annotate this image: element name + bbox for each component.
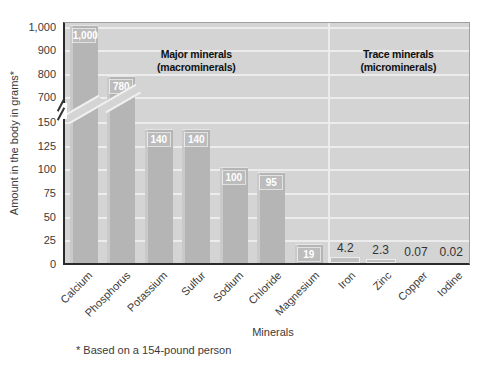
y-tick-label-125: 125: [16, 140, 56, 153]
x-tick-label-copper: Copper: [336, 269, 429, 362]
bar-magnesium: 19: [295, 244, 323, 263]
bar-potassium: 140: [145, 129, 173, 263]
bar-slot-iron: 4.2: [328, 23, 363, 263]
bar-break-mark: [64, 95, 104, 125]
plot-area: 1,0007801401401009519Major minerals(macr…: [63, 22, 470, 265]
y-tick-label-800: 800: [16, 68, 56, 81]
bar-chloride: 95: [257, 172, 285, 263]
y-tick-label-75: 75: [16, 187, 56, 200]
y-axis-ticks: 1,0009008007001501251007550250: [16, 22, 56, 265]
y-tick-label-900: 900: [16, 44, 56, 57]
bar-sulfur: 140: [182, 129, 210, 263]
bar-value-label: 19: [297, 247, 321, 262]
trace-title-line2: (microminerals): [360, 61, 436, 74]
bar-value-label: 100: [222, 170, 246, 185]
bar-phosphorus: 780: [107, 76, 135, 263]
trace-minerals-title: Trace minerals(microminerals): [360, 48, 436, 74]
bar-value-label: 0.02: [428, 245, 474, 259]
major-minerals-title: Major minerals(macrominerals): [157, 48, 236, 74]
bar-sodium: 100: [220, 167, 248, 263]
y-tick-label-700: 700: [16, 91, 56, 104]
bar-slot-iodine: 0.02: [434, 23, 469, 263]
y-tick-label-150: 150: [16, 116, 56, 129]
major-title-line1: Major minerals: [157, 48, 236, 61]
bar-slot-magnesium: 19: [290, 23, 328, 263]
x-axis-title: Minerals: [233, 326, 313, 338]
bar-slot-phosphorus: 780: [103, 23, 141, 263]
x-tick-label-zinc: Zinc: [300, 269, 393, 362]
bar-iron: [330, 257, 360, 263]
bar-zinc: [366, 259, 396, 263]
bar-value-label: 140: [184, 132, 208, 147]
y-tick-label-0: 0: [16, 258, 56, 271]
y-tick-label-1,000: 1,000: [16, 21, 56, 34]
minerals-in-body-bar-chart: Amount in the body in grams* 1,000900800…: [0, 0, 489, 367]
y-tick-label-25: 25: [16, 234, 56, 247]
bar-value-label: 140: [147, 132, 171, 147]
major-title-line2: (macrominerals): [157, 61, 236, 74]
bar-value-label: 95: [259, 175, 283, 190]
bar-slot-calcium: 1,000: [65, 23, 103, 263]
y-tick-label-100: 100: [16, 163, 56, 176]
trace-title-line1: Trace minerals: [360, 48, 436, 61]
chart-footnote: * Based on a 154-pound person: [76, 344, 231, 356]
bar-calcium: 1,000: [70, 25, 98, 263]
x-tick-label-iodine: Iodine: [371, 269, 464, 362]
y-tick-label-50: 50: [16, 211, 56, 224]
x-tick-label-iron: Iron: [264, 269, 357, 362]
bar-value-label: 1,000: [72, 28, 96, 43]
x-tick-label-magnesium: Magnesium: [228, 269, 321, 362]
bar-slot-chloride: 95: [253, 23, 291, 263]
